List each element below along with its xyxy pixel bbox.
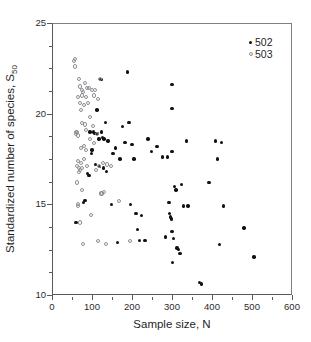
data-point-503 bbox=[78, 220, 82, 224]
x-axis-tick-major bbox=[252, 295, 253, 300]
x-axis-tick-minor bbox=[272, 297, 273, 300]
data-point-503 bbox=[77, 77, 81, 81]
y-axis-tick-minor bbox=[49, 159, 52, 160]
data-point-503 bbox=[117, 199, 121, 203]
data-point-502 bbox=[106, 139, 109, 142]
data-point-502 bbox=[87, 174, 90, 177]
data-point-502 bbox=[116, 241, 119, 244]
y-axis-title-container: Standardized number of species, S50 bbox=[0, 23, 22, 295]
data-point-503 bbox=[89, 213, 93, 217]
x-axis-tick-major bbox=[92, 295, 93, 300]
chart-legend: 502503 bbox=[246, 37, 273, 60]
scatter-plot-figure: Standardized number of species, S50 1015… bbox=[0, 0, 311, 342]
data-point-502 bbox=[90, 152, 93, 155]
y-axis-tick-minor bbox=[49, 182, 52, 183]
data-point-503 bbox=[92, 141, 96, 145]
legend-marker-502-icon bbox=[246, 41, 255, 44]
data-point-502 bbox=[218, 243, 221, 246]
data-point-502 bbox=[132, 157, 135, 160]
y-axis-tick-minor bbox=[49, 46, 52, 47]
y-axis-tick-minor bbox=[49, 91, 52, 92]
data-point-502 bbox=[126, 70, 129, 73]
y-axis-tick-label: 20 bbox=[24, 109, 46, 119]
data-point-502 bbox=[129, 203, 132, 206]
data-point-502 bbox=[164, 235, 167, 238]
y-axis-title-subscript: 50 bbox=[10, 65, 19, 74]
data-point-502 bbox=[200, 282, 203, 285]
x-axis-tick-minor bbox=[112, 297, 113, 300]
data-point-502 bbox=[134, 212, 137, 215]
data-point-503 bbox=[85, 164, 89, 168]
data-point-503 bbox=[102, 190, 106, 194]
data-point-502 bbox=[83, 199, 86, 202]
data-point-502 bbox=[182, 204, 185, 207]
data-point-503 bbox=[93, 88, 97, 92]
y-axis-tick-label: 25 bbox=[24, 18, 46, 28]
x-axis-tick-minor bbox=[152, 297, 153, 300]
data-point-502 bbox=[207, 181, 210, 184]
data-point-502 bbox=[102, 166, 105, 169]
filled-circle-icon bbox=[249, 41, 252, 44]
data-point-502 bbox=[172, 237, 175, 240]
data-point-502 bbox=[136, 228, 139, 231]
data-point-503 bbox=[95, 132, 99, 136]
y-axis-tick-minor bbox=[49, 227, 52, 228]
data-point-502 bbox=[170, 217, 173, 220]
data-point-503 bbox=[96, 239, 100, 243]
data-point-503 bbox=[80, 166, 84, 170]
data-point-502 bbox=[127, 121, 130, 124]
open-circle-icon bbox=[249, 52, 253, 56]
y-axis-tick-major bbox=[47, 23, 52, 24]
data-point-502 bbox=[121, 125, 124, 128]
legend-item-503: 503 bbox=[246, 49, 273, 61]
data-point-503 bbox=[79, 108, 83, 112]
data-point-502 bbox=[170, 230, 173, 233]
data-point-503 bbox=[88, 115, 92, 119]
data-point-502 bbox=[174, 188, 177, 191]
data-point-503 bbox=[81, 90, 85, 94]
data-point-502 bbox=[130, 143, 133, 146]
data-point-503 bbox=[79, 161, 83, 165]
legend-marker-503-icon bbox=[246, 52, 255, 56]
data-point-503 bbox=[91, 124, 95, 128]
x-axis-tick-label: 300 bbox=[152, 301, 192, 312]
data-point-503 bbox=[84, 95, 88, 99]
legend-item-502: 502 bbox=[246, 37, 273, 49]
data-point-502 bbox=[178, 252, 181, 255]
x-axis-tick-minor bbox=[192, 297, 193, 300]
x-axis-tick-major bbox=[52, 295, 53, 300]
y-axis-title: Standardized number of species, S50 bbox=[4, 65, 18, 253]
data-point-503 bbox=[94, 168, 98, 172]
data-point-503 bbox=[104, 242, 108, 246]
data-point-502 bbox=[150, 150, 153, 153]
data-point-503 bbox=[73, 64, 77, 68]
x-axis-title: Sample size, N bbox=[52, 318, 292, 330]
data-point-502 bbox=[171, 261, 174, 264]
y-axis-title-text: Standardized number of species, S bbox=[4, 74, 16, 253]
x-axis-tick-major bbox=[212, 295, 213, 300]
data-point-503 bbox=[84, 148, 88, 152]
x-axis-tick-label: 200 bbox=[112, 301, 152, 312]
data-point-502 bbox=[170, 150, 173, 153]
data-point-503 bbox=[83, 81, 87, 85]
data-point-503 bbox=[97, 164, 101, 168]
data-point-502 bbox=[140, 214, 143, 217]
data-point-502 bbox=[155, 145, 158, 148]
data-point-502 bbox=[123, 141, 126, 144]
data-point-502 bbox=[170, 83, 173, 86]
data-point-502 bbox=[102, 137, 105, 140]
data-point-503 bbox=[80, 188, 84, 192]
data-point-503 bbox=[86, 101, 90, 105]
data-point-502 bbox=[95, 108, 98, 111]
legend-label-502: 502 bbox=[255, 37, 273, 49]
data-point-503 bbox=[83, 122, 87, 126]
x-axis-tick-minor bbox=[232, 297, 233, 300]
data-point-502 bbox=[180, 183, 183, 186]
data-point-502 bbox=[242, 226, 245, 229]
y-axis-tick-major bbox=[47, 114, 52, 115]
x-axis-tick-label: 100 bbox=[72, 301, 112, 312]
data-point-502 bbox=[220, 141, 223, 144]
x-axis-tick-label: 400 bbox=[192, 301, 232, 312]
data-point-502 bbox=[170, 107, 173, 110]
data-point-502 bbox=[114, 146, 117, 149]
